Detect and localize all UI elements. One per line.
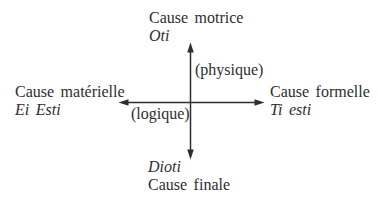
- cause-formelle-term: Ti esti: [270, 101, 370, 119]
- axis-label-physique: (physique): [195, 61, 263, 79]
- label-cause-motrice: Cause motrice Oti: [149, 9, 243, 45]
- cause-materielle-title: Cause matérielle: [15, 83, 125, 101]
- cause-motrice-term: Oti: [149, 27, 243, 45]
- axis-label-logique: (logique): [131, 105, 190, 123]
- cause-motrice-title: Cause motrice: [149, 9, 243, 27]
- label-cause-materielle: Cause matérielle Ei Esti: [15, 83, 125, 119]
- cause-finale-title: Cause finale: [148, 176, 230, 194]
- label-cause-formelle: Cause formelle Ti esti: [270, 83, 370, 119]
- cause-materielle-term: Ei Esti: [15, 101, 125, 119]
- cause-formelle-title: Cause formelle: [270, 83, 370, 101]
- arrowhead-right-icon: [255, 99, 265, 106]
- cause-finale-term: Dioti: [148, 158, 230, 176]
- four-causes-diagram: Cause motrice Oti (physique) (logique) C…: [0, 0, 378, 201]
- label-cause-finale: Dioti Cause finale: [148, 158, 230, 194]
